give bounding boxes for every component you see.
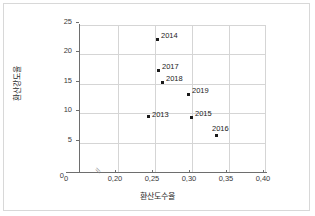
- data-point-2017[interactable]: [157, 69, 160, 72]
- chart-frame: 2013 2014 2015 2016 2017 2018 2019 25 20…: [3, 3, 310, 211]
- data-point-2014[interactable]: [156, 38, 159, 41]
- data-point-2019[interactable]: [187, 93, 190, 96]
- data-point-2013[interactable]: [147, 115, 150, 118]
- gridline-vertical: [155, 25, 156, 172]
- data-label-2019: 2019: [192, 87, 209, 95]
- x-tick-mark: [226, 170, 227, 173]
- data-point-2018[interactable]: [161, 81, 164, 84]
- y-tick-label-15: 15: [52, 77, 72, 85]
- y-axis-line: [79, 24, 80, 173]
- gridline-horizontal: [80, 25, 266, 26]
- gridline-vertical: [192, 25, 193, 172]
- y-tick-label-20: 20: [52, 47, 72, 55]
- data-label-2016: 2016: [212, 125, 229, 133]
- data-label-2015: 2015: [195, 110, 212, 118]
- y-tick-label-5: 5: [52, 136, 72, 144]
- x-tick-label-030: 0,30: [175, 175, 203, 183]
- x-tick-mark: [115, 170, 116, 173]
- plot-area: 2013 2014 2015 2016 2017 2018 2019: [80, 25, 266, 172]
- gridline-horizontal: [80, 143, 266, 144]
- x-tick-label-035: 0,35: [212, 175, 240, 183]
- gridline-horizontal: [80, 113, 266, 114]
- gridline-vertical: [229, 25, 230, 172]
- data-label-2014: 2014: [161, 32, 178, 40]
- x-axis-title: 환산도수율: [0, 190, 315, 201]
- y-tick-mark: [76, 81, 79, 82]
- y-tick-label-10: 10: [52, 106, 72, 114]
- x-tick-mark: [189, 170, 190, 173]
- gridline-vertical: [265, 25, 266, 172]
- x-tick-mark: [263, 170, 264, 173]
- data-label-2018: 2018: [166, 75, 183, 83]
- x-tick-label-020: 0,20: [101, 175, 129, 183]
- data-point-2016[interactable]: [215, 134, 218, 137]
- gridline-horizontal: [80, 54, 266, 55]
- y-tick-mark: [76, 51, 79, 52]
- data-label-2017: 2017: [162, 63, 179, 71]
- data-label-2013: 2013: [152, 111, 169, 119]
- y-tick-label-25: 25: [52, 18, 72, 26]
- y-axis-title: 환산강도율: [11, 49, 22, 119]
- x-tick-label-025: 0,25: [138, 175, 166, 183]
- gridline-vertical: [118, 25, 119, 172]
- gridline-horizontal: [80, 84, 266, 85]
- x-tick-label-0: 0: [52, 175, 80, 183]
- x-tick-label-040: 0,40: [249, 175, 277, 183]
- y-tick-mark: [76, 140, 79, 141]
- y-tick-mark: [76, 22, 79, 23]
- x-tick-mark: [152, 170, 153, 173]
- data-point-2015[interactable]: [190, 116, 193, 119]
- y-tick-mark: [76, 110, 79, 111]
